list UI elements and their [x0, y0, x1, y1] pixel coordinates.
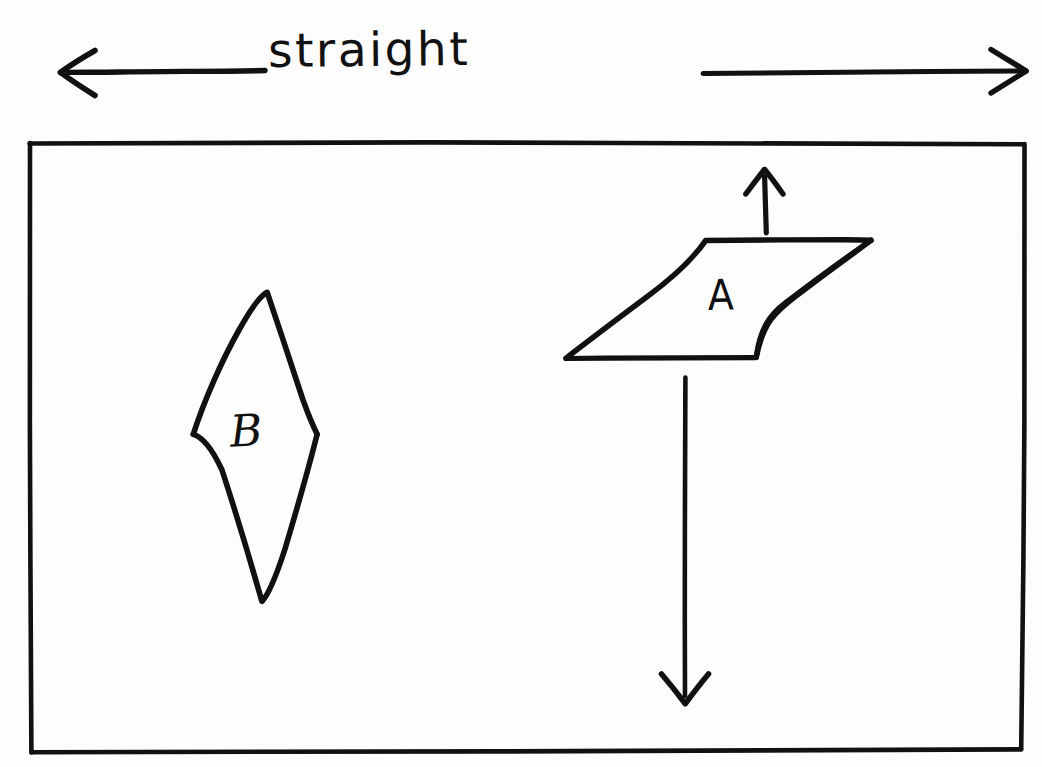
sketch-canvas: straight A B — [0, 0, 1042, 767]
up-pointing-arrow — [746, 170, 783, 234]
left-pointing-arrow — [61, 51, 266, 96]
caption-straight: straight — [268, 25, 471, 74]
down-pointing-arrow — [662, 378, 709, 704]
right-pointing-arrow — [703, 50, 1026, 94]
shape-label-a: A — [707, 274, 734, 317]
sketch-vector-layer — [0, 0, 1042, 767]
parallelogram-a-right-edge — [756, 240, 871, 357]
shape-label-b: B — [229, 408, 264, 454]
outer-rectangle — [30, 142, 1025, 752]
